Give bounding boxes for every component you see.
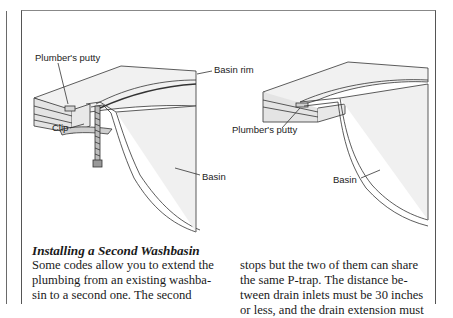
body-line: stops but the two of them can share — [240, 258, 440, 273]
label-basin-left: Basin — [202, 171, 226, 182]
body-line: Some codes allow you to extend the — [32, 258, 232, 273]
left-diagram — [34, 63, 212, 232]
body-line: the same P-trap. The distance be- — [240, 273, 440, 288]
label-plumbers-putty-right: Plumber's putty — [232, 124, 297, 135]
right-diagram — [263, 62, 428, 226]
label-plumbers-putty-left: Plumber's putty — [35, 52, 100, 63]
article-column-1: Installing a Second Washbasin Some codes… — [32, 243, 232, 303]
section-heading: Installing a Second Washbasin — [32, 243, 232, 258]
body-line: tween drain inlets must be 30 inches — [240, 288, 440, 303]
label-basin-right: Basin — [333, 174, 357, 185]
label-basin-rim: Basin rim — [214, 64, 254, 75]
label-clip: Clip — [52, 122, 68, 133]
basin-mounting-illustration — [0, 0, 453, 240]
article-column-2: stops but the two of them can share the … — [240, 258, 440, 318]
body-line: or less, and the drain extension must — [240, 303, 440, 318]
body-line: plumbing from an existing washba- — [32, 273, 232, 288]
body-line: sin to a second one. The second — [32, 288, 232, 303]
